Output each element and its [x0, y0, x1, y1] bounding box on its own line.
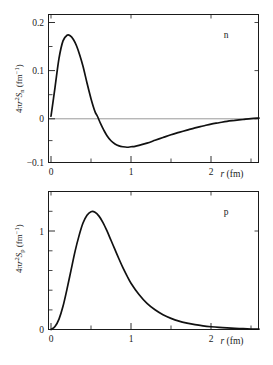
chart-panel-proton: 4πr2Sp (fm−1) 1 0 [0, 183, 273, 365]
neutron-ytick-label-0: 0.2 [32, 18, 44, 28]
neutron-ytick-label-3: −0.1 [27, 158, 44, 168]
proton-xtick-label-2: 2 [209, 334, 214, 344]
neutron-y-axis-title: 4πr2Sn (fm−1) [13, 64, 25, 113]
neutron-xtick-label-1: 1 [129, 167, 134, 177]
neutron-ytick-label-2: 0 [39, 114, 44, 124]
proton-x-axis-title: r (fm) [221, 336, 244, 347]
proton-xtick-label-0: 0 [49, 334, 54, 344]
neutron-data-curve [51, 35, 259, 147]
proton-x-ticks [51, 192, 251, 330]
neutron-xtick-label-0: 0 [49, 167, 54, 177]
proton-plot-svg: 4πr2Sp (fm−1) 1 0 [0, 183, 273, 365]
neutron-plot-svg: 4πr2Sn (fm−1) 0.2 0.1 0 [0, 0, 273, 183]
proton-ytick-label-0: 1 [39, 227, 44, 237]
chart-panel-neutron: 4πr2Sn (fm−1) 0.2 0.1 0 [0, 0, 273, 183]
proton-xtick-label-1: 1 [129, 334, 134, 344]
neutron-x-ticks [51, 15, 251, 163]
neutron-panel-badge: n [224, 30, 229, 40]
proton-data-curve [51, 211, 259, 329]
figure-container: 4πr2Sn (fm−1) 0.2 0.1 0 [0, 0, 273, 365]
proton-panel-badge: p [224, 207, 229, 217]
neutron-ytick-label-1: 0.1 [32, 66, 44, 76]
neutron-x-axis-title: r (fm) [221, 169, 244, 180]
proton-ytick-label-1: 0 [39, 325, 44, 335]
neutron-xtick-label-2: 2 [209, 167, 214, 177]
proton-y-axis-title: 4πr2Sp (fm−1) [13, 224, 25, 273]
